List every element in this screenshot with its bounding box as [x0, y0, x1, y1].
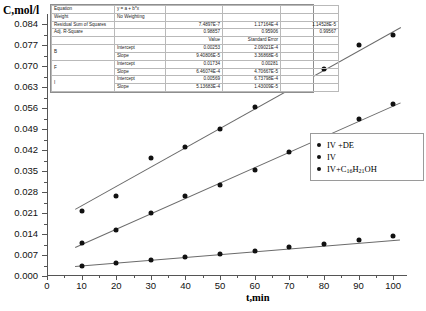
- x-axis-tick-label: 60: [249, 280, 260, 291]
- x-axis-minor-tick: [307, 275, 308, 278]
- data-point: [218, 252, 223, 257]
- y-axis-tick-label: 0.077: [0, 39, 38, 50]
- data-point: [391, 101, 396, 106]
- stats-cell: Slope: [115, 68, 166, 76]
- stats-row: ValueStandard Error: [52, 37, 339, 45]
- legend-marker-icon: [317, 155, 321, 159]
- stats-cell: [166, 6, 223, 14]
- y-axis-minor-tick: [44, 245, 47, 246]
- stats-cell: 0.95906: [223, 29, 281, 37]
- stats-cell: [52, 37, 115, 45]
- legend-item[interactable]: IV +DE: [317, 139, 419, 151]
- x-axis-minor-tick: [341, 275, 342, 278]
- y-axis-minor-tick: [44, 182, 47, 183]
- stats-cell: [281, 45, 339, 53]
- fit-line: [75, 240, 400, 267]
- data-point: [148, 155, 153, 160]
- legend-item[interactable]: IV: [317, 151, 419, 163]
- stats-cell: Adj. R-Square: [52, 29, 115, 37]
- stats-row: Adj. R-Square0.988570.959060.99567: [52, 29, 339, 37]
- y-axis-tick: [42, 108, 47, 109]
- y-axis-tick-label: 0.007: [0, 249, 38, 260]
- x-axis-minor-tick: [99, 275, 100, 278]
- x-axis-tick-label: 20: [111, 280, 122, 291]
- chart-root: C,mol/l t,min 0.0000.0070.0140.0210.0280…: [0, 0, 426, 311]
- x-axis-tick-label: 80: [319, 280, 330, 291]
- x-axis-tick-label: 40: [180, 280, 191, 291]
- x-axis-minor-tick: [203, 275, 204, 278]
- y-axis-minor-tick: [44, 35, 47, 36]
- stats-cell: Slope: [115, 84, 166, 92]
- stats-row: BIntercept0.002532.09021E-4: [52, 45, 339, 53]
- stats-cell: Standard Error: [223, 37, 281, 45]
- y-axis-minor-tick: [44, 161, 47, 162]
- stats-cell: 9.40806E-5: [166, 52, 223, 60]
- data-point: [356, 116, 361, 121]
- y-axis-minor-tick: [44, 140, 47, 141]
- data-point: [218, 182, 223, 187]
- data-point: [391, 234, 396, 239]
- y-axis-minor-tick: [44, 266, 47, 267]
- data-point: [252, 167, 257, 172]
- y-axis-tick: [42, 213, 47, 214]
- legend-marker-icon: [317, 143, 321, 147]
- y-axis-tick-label: 0.063: [0, 81, 38, 92]
- y-axis-line: [47, 14, 48, 276]
- stats-cell: 1.43009E-5: [223, 84, 281, 92]
- data-point: [218, 127, 223, 132]
- x-axis-tick-label: 70: [284, 280, 295, 291]
- data-point: [79, 264, 84, 269]
- stats-row: Equationy = a + b*x: [52, 6, 339, 14]
- stats-cell: Slope: [115, 52, 166, 60]
- fit-statistics-table: Equationy = a + b*xWeightNo WeightingRes…: [50, 4, 314, 93]
- y-axis-minor-tick: [44, 224, 47, 225]
- stats-cell: 0.01734: [166, 60, 223, 68]
- data-point: [391, 32, 396, 37]
- stats-cell: [223, 13, 281, 21]
- x-axis-tick-label: 30: [146, 280, 157, 291]
- y-axis-tick: [42, 150, 47, 151]
- stats-cell: I: [52, 76, 115, 92]
- legend-item[interactable]: IV+C16H21OH: [317, 163, 419, 175]
- y-axis-tick-label: 0.056: [0, 102, 38, 113]
- legend-item-label: IV+C16H21OH: [327, 164, 377, 174]
- stats-cell: Intercept: [115, 76, 166, 84]
- stats-cell: 2.09021E-4: [223, 45, 281, 53]
- stats-cell: 0.00569: [166, 76, 223, 84]
- x-axis-tick-label: 90: [353, 280, 364, 291]
- stats-row: Residual Sum of Squares7.4897E-71.17164E…: [52, 21, 339, 29]
- y-axis-tick-label: 0.035: [0, 165, 38, 176]
- stats-cell: 1.14528E-5: [281, 21, 339, 29]
- stats-row: FIntercept0.017340.00281: [52, 60, 339, 68]
- stats-cell: [281, 52, 339, 60]
- y-axis-tick: [42, 129, 47, 130]
- data-point: [287, 149, 292, 154]
- y-axis-tick-label: 0.084: [0, 18, 38, 29]
- y-axis-tick: [42, 45, 47, 46]
- stats-cell: 7.4897E-7: [166, 21, 223, 29]
- data-point: [183, 255, 188, 260]
- stats-cell: [115, 37, 166, 45]
- stats-cell: [281, 13, 339, 21]
- data-point: [321, 241, 326, 246]
- stats-cell: 0.98857: [166, 29, 223, 37]
- y-axis-tick-label: 0.028: [0, 186, 38, 197]
- data-point: [148, 211, 153, 216]
- stats-cell: [223, 6, 281, 14]
- stats-cell: [281, 60, 339, 68]
- x-axis-tick-label: 100: [385, 280, 401, 291]
- data-point: [79, 208, 84, 213]
- y-axis-minor-tick: [44, 98, 47, 99]
- legend-item-label: IV +DE: [327, 140, 354, 150]
- data-point: [356, 43, 361, 48]
- data-point: [148, 258, 153, 263]
- data-point: [79, 241, 84, 246]
- data-point: [183, 194, 188, 199]
- x-axis-minor-tick: [134, 275, 135, 278]
- stats-cell: 3.36868E-6: [223, 52, 281, 60]
- y-axis-minor-tick: [44, 119, 47, 120]
- x-axis-tick-label: 10: [76, 280, 87, 291]
- data-point: [114, 227, 119, 232]
- data-point: [252, 248, 257, 253]
- stats-cell: 5.13683E-4: [166, 84, 223, 92]
